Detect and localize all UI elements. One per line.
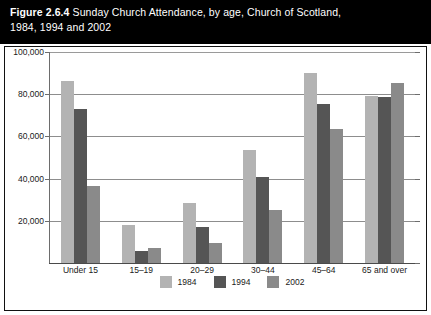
y-tick-mark-right-60000: [415, 136, 420, 137]
x-axis-category-label: Under 15: [50, 265, 111, 275]
chart-legend: 198419942002: [49, 276, 415, 288]
figure-number: Figure 2.6.4: [10, 6, 70, 18]
bar-1984: [61, 81, 74, 264]
y-axis-tick-label: 60,000: [18, 131, 44, 141]
x-axis-category-label: 20–29: [172, 265, 233, 275]
x-axis-category-label: 65 and over: [354, 265, 415, 275]
legend-item-1994: 1994: [214, 276, 251, 288]
bar-1994: [256, 177, 269, 264]
figure-title-text: Sunday Church Attendance, by age, Church…: [70, 6, 342, 18]
bar-1994: [135, 251, 148, 263]
bar-1984: [304, 73, 317, 263]
bar-1984: [243, 150, 256, 263]
x-axis-category-label: 15–19: [111, 265, 172, 275]
plot-area: 20,00040,00060,00080,000100,000 Under 15…: [49, 52, 415, 263]
legend-item-1984: 1984: [160, 276, 197, 288]
y-tick-mark-right-40000: [415, 179, 420, 180]
x-axis-category-label: 45–64: [293, 265, 354, 275]
bar-1984: [183, 203, 196, 263]
y-axis-tick-label: 80,000: [18, 89, 44, 99]
y-axis-tick-label: 100,000: [13, 47, 44, 57]
figure-title-bar: Figure 2.6.4 Sunday Church Attendance, b…: [0, 0, 431, 44]
bar-1994: [317, 104, 330, 263]
y-tick-mark-right-20000: [415, 221, 420, 222]
bar-group: Under 15: [50, 52, 111, 263]
y-tick-mark-right-80000: [415, 94, 420, 95]
bar-group: 45–64: [293, 52, 354, 263]
bar-2002: [391, 83, 404, 263]
bar-1994: [196, 227, 209, 263]
y-tick-mark-right-100000: [415, 52, 420, 53]
figure-container: Figure 2.6.4 Sunday Church Attendance, b…: [0, 0, 431, 315]
legend-swatch-1994: [214, 276, 226, 288]
bar-1984: [365, 96, 378, 263]
bar-2002: [148, 248, 161, 263]
legend-label-1984: 1984: [178, 277, 197, 287]
bar-group: 20–29: [172, 52, 233, 263]
bar-2002: [330, 129, 343, 263]
y-axis-tick-label: 20,000: [18, 216, 44, 226]
bar-group: 15–19: [111, 52, 172, 263]
bar-1984: [122, 225, 135, 263]
bar-1994: [378, 97, 391, 263]
bar-2002: [87, 186, 100, 263]
figure-title-line-1: Figure 2.6.4 Sunday Church Attendance, b…: [10, 5, 421, 20]
x-axis-category-label: 30–44: [232, 265, 293, 275]
y-axis-tick-label: 40,000: [18, 174, 44, 184]
legend-swatch-2002: [267, 276, 279, 288]
bar-1994: [74, 109, 87, 263]
bar-2002: [209, 243, 222, 263]
figure-title-line-2: 1984, 1994 and 2002: [10, 20, 421, 35]
x-axis-line: [49, 263, 415, 264]
bar-group: 65 and over: [354, 52, 415, 263]
bar-groups: Under 1515–1920–2930–4445–6465 and over: [50, 52, 415, 263]
legend-label-1994: 1994: [232, 277, 251, 287]
bar-group: 30–44: [232, 52, 293, 263]
y-tick-mark-right-0: [415, 263, 420, 264]
legend-item-2002: 2002: [267, 276, 304, 288]
legend-label-2002: 2002: [285, 277, 304, 287]
legend-swatch-1984: [160, 276, 172, 288]
bar-2002: [269, 210, 282, 263]
